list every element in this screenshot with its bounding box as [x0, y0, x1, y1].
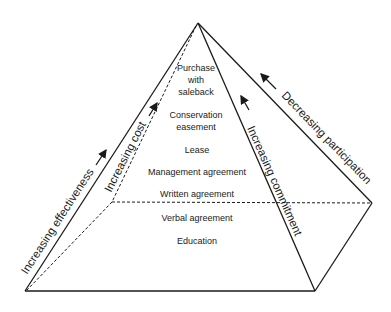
- level-easement: easement: [176, 122, 216, 132]
- label-decreasing-participation: Decreasing participation: [280, 89, 374, 186]
- edge-apex-front-right: [198, 23, 315, 291]
- pyramid-diagram: Purchase with saleback Conservation ease…: [0, 0, 391, 312]
- level-management-agreement: Management agreement: [148, 167, 247, 177]
- edge-apex-left: [25, 23, 198, 291]
- level-with: with: [187, 75, 204, 85]
- level-conservation: Conservation: [169, 110, 222, 120]
- hidden-edge-base-back: [112, 202, 372, 203]
- arrow-commitment-icon: [241, 96, 249, 110]
- level-written-agreement: Written agreement: [160, 189, 234, 199]
- level-education: Education: [177, 236, 217, 246]
- level-lease: Lease: [185, 145, 210, 155]
- label-increasing-effectiveness: Increasing effectiveness: [19, 166, 96, 276]
- arrow-effectiveness-icon: [96, 150, 106, 165]
- level-purchase: Purchase: [177, 63, 215, 73]
- arrow-participation-icon: [261, 74, 276, 89]
- level-saleback: saleback: [178, 87, 214, 97]
- edge-base-right: [315, 203, 372, 291]
- level-labels: Purchase with saleback Conservation ease…: [148, 63, 247, 246]
- level-verbal-agreement: Verbal agreement: [161, 213, 233, 223]
- label-increasing-cost: Increasing cost: [102, 119, 148, 194]
- label-increasing-commitment: Increasing commitment: [245, 124, 305, 238]
